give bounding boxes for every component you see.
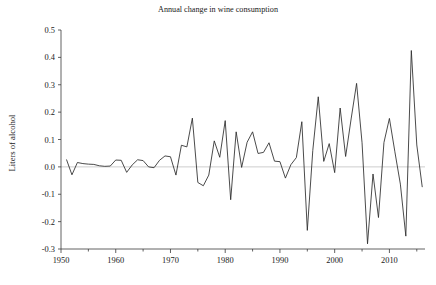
x-tick-label: 1990 <box>272 256 289 265</box>
y-tick-label: -0.3 <box>42 245 55 254</box>
y-tick-label: 0.2 <box>45 108 55 117</box>
y-tick-label: 0.1 <box>45 136 55 145</box>
x-tick-label: 2000 <box>326 256 343 265</box>
y-tick-label: 0.3 <box>45 81 55 90</box>
x-tick-label: 1970 <box>162 256 179 265</box>
chart-title: Annual change in wine consumption <box>158 5 278 14</box>
y-tick-label: 0.0 <box>45 163 55 172</box>
x-tick-label: 1960 <box>107 256 124 265</box>
y-tick-label: 0.4 <box>45 53 56 62</box>
y-axis-label: Liters of alcohol <box>7 114 17 171</box>
x-axis: 1950196019701980199020002010 <box>53 249 425 265</box>
series-line <box>66 51 422 244</box>
x-tick-label: 2010 <box>381 256 398 265</box>
line-chart: Annual change in wine consumption Liters… <box>0 0 436 285</box>
data-series <box>66 51 422 244</box>
y-tick-label: -0.1 <box>42 190 55 199</box>
y-tick-label: -0.2 <box>42 218 55 227</box>
chart-figure: Annual change in wine consumption Liters… <box>0 0 436 285</box>
y-tick-label: 0.5 <box>45 26 55 35</box>
x-tick-label: 1980 <box>217 256 234 265</box>
y-axis: -0.3-0.2-0.10.00.10.20.30.40.5 <box>42 26 61 254</box>
x-tick-label: 1950 <box>53 256 70 265</box>
